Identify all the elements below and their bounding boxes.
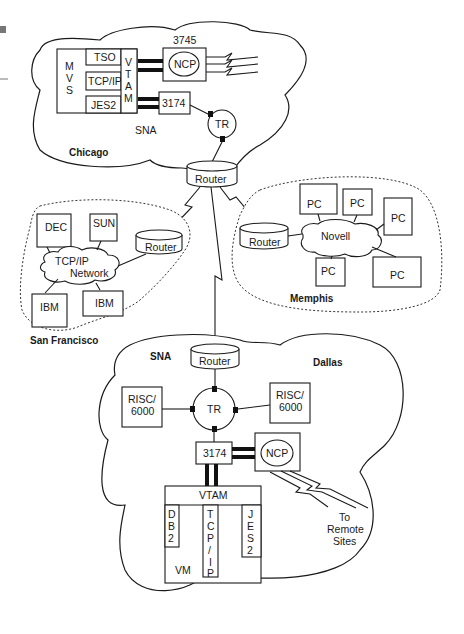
chicago-jes2-label: JES2 <box>91 99 116 111</box>
remote-sites-label-2: Remote <box>327 523 364 535</box>
tso-label: TSO <box>94 51 116 63</box>
memphis-router-label: Router <box>249 236 281 248</box>
chicago-network-label: SNA <box>135 124 157 136</box>
jes2-letter: 2 <box>247 544 253 556</box>
dallas-network-label: SNA <box>150 351 171 362</box>
pc-label-4: PC <box>321 265 336 277</box>
sf-router: Router <box>136 230 182 254</box>
mvs-letter-v: V <box>66 72 73 84</box>
tcpip-letter: P <box>207 532 214 544</box>
dallas-ncp-label: NCP <box>266 447 288 459</box>
wan-link-dallas <box>211 187 222 345</box>
mvs-letter-s: S <box>66 84 73 96</box>
chicago-router-label: Router <box>195 173 227 185</box>
sf-router-label: Router <box>145 241 177 253</box>
vtam-letter-t: T <box>125 68 132 80</box>
pc-label-1: PC <box>307 198 322 210</box>
remote-sites-label-1: To <box>339 511 350 523</box>
chicago-site-label: Chicago <box>69 147 108 158</box>
db2-letter: 2 <box>168 532 174 544</box>
memphis-site-label: Memphis <box>290 293 334 304</box>
dallas-3174-label: 3174 <box>203 447 227 459</box>
dallas-site-label: Dallas <box>313 357 343 368</box>
dallas-router-label: Router <box>199 355 231 367</box>
risc-right-label-2: 6000 <box>279 401 303 413</box>
chicago-ncp-label: NCP <box>174 58 196 70</box>
db2-letter: B <box>168 520 175 532</box>
tcpip-letter: C <box>207 520 215 532</box>
ibm-label-1: IBM <box>40 301 59 313</box>
risc-right-label-1: RISC/ <box>276 389 304 401</box>
dallas-vtam-label: VTAM <box>199 489 227 501</box>
sun-label: SUN <box>93 217 115 229</box>
ibm-label-2: IBM <box>95 297 114 309</box>
sf-network-label-2: Network <box>70 267 109 279</box>
dallas-tr-label: TR <box>207 403 221 415</box>
db2-letter: D <box>168 508 176 520</box>
tcpip-letter: T <box>207 508 214 520</box>
memphis-router: Router <box>240 223 288 249</box>
pc-label-3: PC <box>391 212 406 224</box>
vtam-letter-v: V <box>125 56 132 68</box>
vm-label: VM <box>175 564 191 576</box>
chicago-router: Router <box>187 161 237 187</box>
tcpip-letter: / <box>208 544 211 556</box>
fep-model-label: 3745 <box>173 34 197 46</box>
dallas-router: Router <box>191 344 239 369</box>
vtam-letter-a: A <box>125 80 132 92</box>
remote-sites-label-3: Sites <box>333 535 356 547</box>
mvs-letter-m: M <box>65 60 74 72</box>
chicago-tr-label: TR <box>215 118 229 130</box>
dec-label: DEC <box>45 221 68 233</box>
jes2-letter: J <box>248 508 253 520</box>
jes2-letter: S <box>247 532 254 544</box>
page-marker <box>0 26 6 33</box>
chicago-3174-label: 3174 <box>162 97 186 109</box>
sf-site-label: San Francisco <box>30 335 98 346</box>
sf-network-label: TCP/IP <box>55 255 89 267</box>
jes2-letter: E <box>247 520 254 532</box>
pc-label-5: PC <box>390 269 405 281</box>
tcpip-letter: P <box>207 567 214 579</box>
vtam-letter-m: M <box>124 92 133 104</box>
novell-label: Novell <box>321 230 350 242</box>
pc-label-2: PC <box>350 197 365 209</box>
risc-left-label-2: 6000 <box>131 405 155 417</box>
risc-left-label-1: RISC/ <box>128 393 156 405</box>
chicago-tcpip-label: TCP/IP <box>88 75 122 87</box>
network-diagram: M V S TSO TCP/IP JES2 V T A M 3745 NCP 3… <box>0 0 464 634</box>
